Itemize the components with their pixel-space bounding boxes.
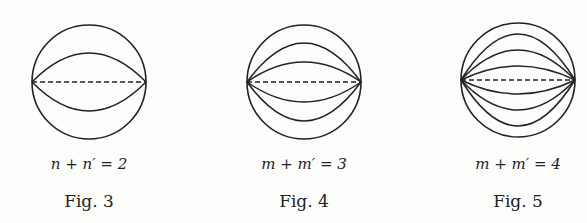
formula-fig3: n + n′ = 2 — [19, 155, 159, 173]
sphere-figure-5 — [461, 23, 575, 137]
formula-fig4: m + m′ = 3 — [234, 155, 374, 173]
spheres-diagram — [0, 0, 587, 223]
sphere-figure-3 — [32, 25, 146, 139]
caption-fig5: Fig. 5 — [448, 191, 587, 211]
caption-fig3: Fig. 3 — [19, 191, 159, 211]
sphere-figure-4 — [247, 25, 361, 139]
caption-fig4: Fig. 4 — [234, 191, 374, 211]
formula-fig5: m + m′ = 4 — [448, 155, 587, 173]
